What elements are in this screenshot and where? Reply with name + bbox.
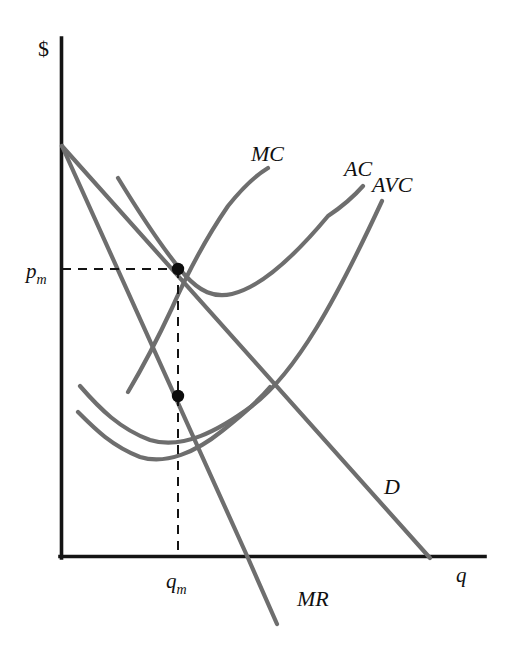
quantity-label-base: q (166, 569, 177, 593)
demand-curve (62, 146, 430, 558)
average-variable-cost-curve (80, 201, 382, 443)
price-axis-annotation: pm (24, 259, 47, 287)
marginal-cost-label: MC (250, 141, 284, 166)
mr-equals-mc-point-dot (172, 390, 184, 402)
demand-label: D (383, 474, 400, 499)
marginal-revenue-curve (62, 146, 277, 624)
y-axis-label: $ (38, 36, 49, 61)
price-label-base: p (24, 259, 37, 283)
monopoly-price-point-dot (172, 263, 184, 275)
price-label-subscript: m (37, 272, 47, 287)
quantity-label-subscript: m (177, 582, 187, 597)
monopoly-diagram-figure: $ q pm qm MC AC AVC D MR (0, 0, 508, 655)
average-variable-cost-label: AVC (370, 172, 413, 197)
axes-group (60, 38, 485, 558)
average-cost-label: AC (342, 156, 372, 181)
diagram-canvas: $ q pm qm MC AC AVC D MR (0, 0, 508, 655)
x-axis-label: q (456, 563, 467, 587)
marginal-cost-curve (128, 168, 268, 392)
marginal-revenue-label: MR (296, 586, 329, 611)
average-cost-curve (118, 178, 363, 295)
curves-group (62, 146, 430, 624)
quantity-axis-annotation: qm (166, 569, 187, 597)
